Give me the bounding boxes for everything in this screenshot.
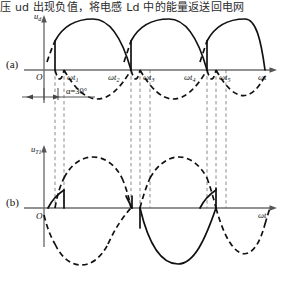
panel-a-solid-arc-3 xyxy=(207,19,265,70)
panel-b-x-axis-label: ωt xyxy=(258,210,267,220)
panel-b-group: uT1 ωt O xyxy=(24,144,277,265)
panel-a-tick-4: ωt4 xyxy=(184,72,195,83)
panel-b-y-axis-label: uT1 xyxy=(31,144,42,155)
panel-a-tick-1: ωt1 xyxy=(67,72,78,83)
firing-angle-label: α=30° xyxy=(66,86,87,96)
waveform-figure: 压 ud 出现负值，将电感 Ld 中的能量返送回电网 (a) (b) xyxy=(0,0,287,283)
panel-a-tick-5: ωt5 xyxy=(219,72,230,83)
panel-b-commutation-spikes xyxy=(48,190,216,208)
panel-a-tick-3: ωt3 xyxy=(143,72,154,83)
panel-b-x-axis xyxy=(24,205,277,211)
panel-a-tick-2: ωt2 xyxy=(108,72,119,83)
panel-a-solid-arc-1 xyxy=(55,19,131,70)
panel-b-solid-negative-arc xyxy=(140,208,216,264)
panel-a-origin-label: O xyxy=(36,72,43,82)
panel-b-origin-label: O xyxy=(36,211,43,221)
waveform-svg: ud ωt O ωt1 ωt2 ωt3 ωt4 ωt5 xyxy=(0,0,287,283)
panel-b-dashed-lower xyxy=(44,208,270,265)
panel-a-solid-arc-2 xyxy=(131,19,207,70)
panel-b-y-axis xyxy=(41,145,47,247)
panel-b-dashed-upper xyxy=(55,157,216,208)
panel-a-firing-vertical-lines xyxy=(55,41,207,70)
panel-a-y-axis-label: ud xyxy=(34,11,42,22)
